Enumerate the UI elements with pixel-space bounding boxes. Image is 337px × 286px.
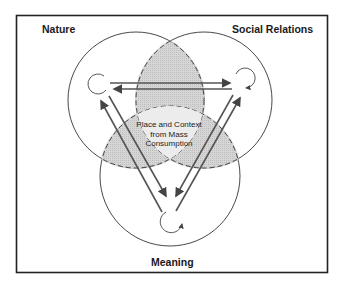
- nature-loop-icon: [88, 74, 106, 94]
- center-label-line1: Place and Context: [124, 120, 214, 130]
- meaning-label: Meaning: [151, 256, 194, 268]
- center-label-line2: from Mass: [124, 130, 214, 140]
- social-relations-label: Social Relations: [232, 23, 313, 35]
- nature-label: Nature: [42, 23, 75, 35]
- center-label: Place and Context from Mass Consumption: [124, 120, 214, 149]
- meaning-loop-icon: [160, 212, 182, 233]
- social-loop-icon: [236, 68, 255, 88]
- center-label-line3: Consumption: [124, 139, 214, 149]
